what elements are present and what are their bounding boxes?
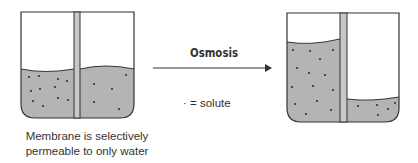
- beaker-before: [21, 12, 134, 118]
- caption-line-2: permeable to only water: [12, 144, 162, 159]
- membrane-caption: Membrane is selectively permeable to onl…: [12, 129, 162, 159]
- beaker-after: [287, 13, 399, 122]
- osmosis-arrow: [153, 64, 272, 72]
- caption-line-1: Membrane is selectively: [12, 129, 162, 144]
- membrane-after: [340, 13, 347, 122]
- solute-legend: · = solute: [183, 96, 231, 111]
- membrane-before: [74, 12, 80, 118]
- process-label: Osmosis: [190, 46, 238, 61]
